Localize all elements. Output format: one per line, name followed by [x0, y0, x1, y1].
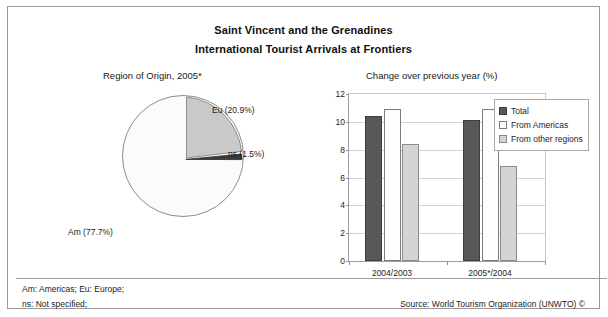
legend-label-from-other-regions: From other regions — [511, 134, 583, 144]
y-tick-mark — [346, 150, 349, 151]
source-note: Source: World Tourism Organization (UNWT… — [400, 299, 585, 309]
legend-swatch-from-other-regions-icon — [499, 135, 507, 143]
page-title-line-1: Saint Vincent and the Grenadines — [8, 24, 599, 36]
pie-label-eu: Eu (20.9%) — [212, 105, 255, 115]
y-tick-label: 2 — [340, 228, 345, 238]
x-category-label: 2004/2003 — [372, 268, 412, 278]
y-tick-label: 10 — [336, 117, 345, 127]
y-tick-mark — [346, 94, 349, 95]
y-tick-label: 0 — [340, 256, 345, 266]
pie-label-am: Am (77.7%) — [68, 227, 113, 237]
bar-chart-title: Change over previous year (%) — [366, 70, 497, 81]
page-title-line-2: International Tourist Arrivals at Fronti… — [8, 43, 599, 55]
y-tick-label: 12 — [336, 89, 345, 99]
y-tick-label: 4 — [340, 200, 345, 210]
legend-swatch-from-americas-icon — [499, 121, 507, 129]
legend-item-total[interactable]: Total — [499, 104, 583, 118]
bar-americas — [384, 109, 401, 261]
chart-legend: Total From Americas From other regions — [494, 99, 589, 151]
chart-frame: Saint Vincent and the Grenadines Interna… — [7, 6, 600, 309]
y-tick-label: 8 — [340, 145, 345, 155]
screenshot-root: Saint Vincent and the Grenadines Interna… — [0, 0, 608, 317]
legend-item-from-other-regions[interactable]: From other regions — [499, 132, 583, 146]
legend-swatch-total-icon — [499, 107, 507, 115]
bar-other — [500, 166, 517, 261]
bar-chart: 024681012 2004/20032005*/2004 Total From… — [326, 85, 606, 280]
y-tick-mark — [346, 122, 349, 123]
footnote-abbreviations-1: Am: Americas; Eu: Europe; — [22, 284, 124, 294]
legend-label-from-americas: From Americas — [511, 120, 568, 130]
x-tick-mark — [545, 261, 546, 265]
y-tick-mark — [346, 205, 349, 206]
x-tick-mark — [447, 261, 448, 265]
y-tick-label: 6 — [340, 173, 345, 183]
y-tick-mark — [346, 178, 349, 179]
legend-item-from-americas[interactable]: From Americas — [499, 118, 583, 132]
bar-other — [402, 144, 419, 261]
pie-label-ns: ns (1.5%) — [228, 149, 264, 159]
pie-chart: Eu (20.9%) ns (1.5%) Am (77.7%) — [44, 87, 314, 262]
bar-total — [463, 120, 480, 261]
footnote-abbreviations-2: ns: Not specified; — [22, 299, 87, 309]
x-tick-mark — [349, 261, 350, 265]
pie-chart-title: Region of Origin, 2005* — [103, 70, 202, 81]
legend-label-total: Total — [511, 106, 529, 116]
y-tick-mark — [346, 233, 349, 234]
bar-total — [365, 116, 382, 261]
x-category-label: 2005*/2004 — [468, 268, 512, 278]
footer-divider — [16, 278, 607, 279]
